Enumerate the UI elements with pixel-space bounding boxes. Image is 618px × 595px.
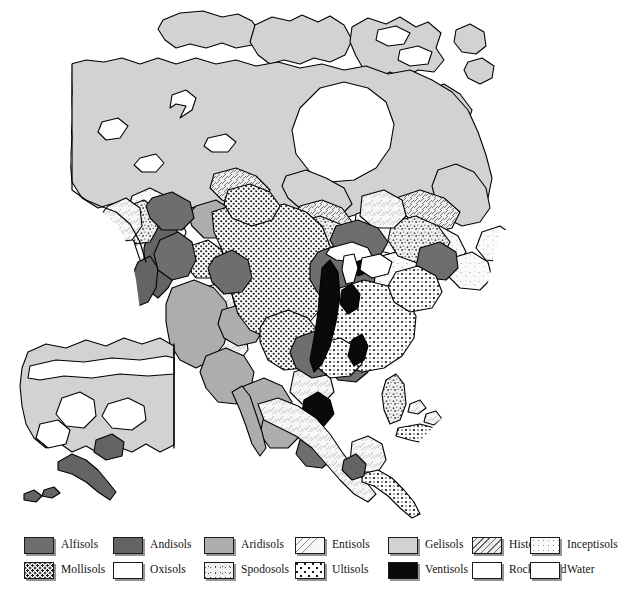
legend-item-gelisols[interactable]: Gelisols	[388, 534, 464, 556]
legend-label-alfisols: Alfisols	[61, 539, 98, 551]
inceptisols-swatch	[530, 537, 560, 554]
alfisols-swatch	[24, 537, 54, 554]
legend-item-mollisols[interactable]: Mollisols	[24, 559, 105, 581]
legend-label-gelisols: Gelisols	[425, 539, 464, 551]
oxisols-swatch	[113, 562, 143, 579]
legend-item-andisols[interactable]: Andisols	[113, 534, 192, 556]
spodosols-swatch	[204, 562, 234, 579]
legend-row-2: Mollisols Oxisols Spodosols Ultisols Ven…	[0, 559, 583, 583]
legend-item-spodosols[interactable]: Spodosols	[204, 559, 289, 581]
legend-row-1: Alfisols Andisols Aridisols Entisols Gel…	[0, 534, 583, 558]
entisols-swatch	[295, 537, 325, 554]
water-swatch	[530, 562, 560, 579]
ultisols-swatch	[295, 562, 325, 579]
andisols-swatch	[113, 537, 143, 554]
legend-label-aridisols: Aridisols	[241, 539, 284, 551]
map-legend: Alfisols Andisols Aridisols Entisols Gel…	[0, 528, 583, 595]
legend-label-ventisols: Ventisols	[425, 564, 468, 576]
gelisols-swatch	[388, 537, 418, 554]
legend-item-water[interactable]: Water	[530, 559, 595, 581]
legend-item-aridisols[interactable]: Aridisols	[204, 534, 284, 556]
mollisols-swatch	[24, 562, 54, 579]
north-america-soil-map	[0, 0, 583, 525]
legend-label-water: Water	[567, 564, 595, 576]
legend-item-alfisols[interactable]: Alfisols	[24, 534, 98, 556]
legend-item-entisols[interactable]: Entisols	[295, 534, 370, 556]
legend-label-ultisols: Ultisols	[332, 564, 369, 576]
legend-label-mollisols: Mollisols	[61, 564, 105, 576]
legend-item-ventisols[interactable]: Ventisols	[388, 559, 468, 581]
legend-label-inceptisols: Inceptisols	[567, 539, 618, 551]
legend-label-andisols: Andisols	[150, 539, 192, 551]
legend-item-oxisols[interactable]: Oxisols	[113, 559, 186, 581]
rocky-land-swatch	[472, 562, 502, 579]
legend-label-entisols: Entisols	[332, 539, 370, 551]
map-area	[0, 0, 583, 525]
legend-label-spodosols: Spodosols	[241, 564, 289, 576]
ventisols-swatch	[388, 562, 418, 579]
histosols-swatch	[472, 537, 502, 554]
arctic-island-victoria	[250, 15, 352, 64]
aridisols-swatch	[204, 537, 234, 554]
legend-item-ultisols[interactable]: Ultisols	[295, 559, 369, 581]
legend-item-inceptisols[interactable]: Inceptisols	[530, 534, 618, 556]
legend-label-oxisols: Oxisols	[150, 564, 186, 576]
